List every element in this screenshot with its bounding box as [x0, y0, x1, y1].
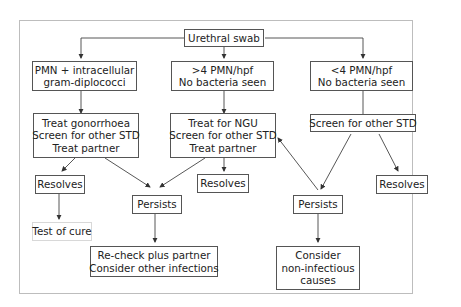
node-left-persists: Persists: [132, 195, 182, 214]
node-text: non-infectious: [281, 262, 354, 275]
node-text: >4 PMN/hpf: [192, 64, 253, 77]
node-text: Consider other infections: [89, 262, 218, 275]
node-right-resolves: Resolves: [376, 175, 428, 194]
node-text: causes: [300, 274, 336, 287]
node-treat-gonorrhoea: Treat gonorrhoea Screen for other STD Tr…: [33, 113, 139, 158]
node-text: PMN + intracellular: [35, 64, 135, 77]
node-mid-resolves: Resolves: [197, 174, 249, 193]
node-text: Resolves: [37, 178, 82, 191]
node-text: Treat partner: [53, 142, 120, 155]
node-text: Resolves: [200, 177, 245, 190]
node-left-resolves: Resolves: [35, 175, 85, 194]
node-screen-std: Screen for other STD: [310, 114, 416, 132]
node-right-persists: Persists: [293, 195, 343, 214]
node-gt4-pmn: >4 PMN/hpf No bacteria seen: [171, 61, 274, 91]
node-text: Urethral swab: [188, 32, 260, 45]
node-text: Resolves: [379, 178, 424, 191]
node-non-infectious: Consider non-infectious causes: [276, 246, 360, 290]
node-recheck: Re-check plus partner Consider other inf…: [90, 246, 218, 277]
node-text: Test of cure: [32, 225, 91, 238]
node-text: No bacteria seen: [179, 76, 266, 89]
node-test-of-cure: Test of cure: [32, 222, 92, 241]
node-text: Re-check plus partner: [98, 249, 211, 262]
node-text: Screen for other STD: [309, 117, 417, 130]
node-text: Consider: [295, 249, 340, 262]
node-text: Screen for other STD: [169, 129, 277, 142]
node-text: Treat gonorrhoea: [42, 117, 130, 130]
node-text: gram-diplococci: [43, 76, 125, 89]
node-text: Screen for other STD: [32, 129, 140, 142]
node-treat-ngu: Treat for NGU Screen for other STD Treat…: [170, 113, 276, 158]
node-lt4-pmn: <4 PMN/hpf No bacteria seen: [310, 61, 413, 91]
node-text: <4 PMN/hpf: [331, 64, 392, 77]
node-pmn-intracellular: PMN + intracellular gram-diplococci: [32, 61, 137, 91]
node-text: Treat partner: [190, 142, 257, 155]
node-text: Persists: [298, 198, 337, 211]
node-text: Persists: [137, 198, 176, 211]
node-text: Treat for NGU: [188, 117, 257, 130]
node-urethral-swab: Urethral swab: [184, 29, 264, 47]
node-text: No bacteria seen: [318, 76, 405, 89]
